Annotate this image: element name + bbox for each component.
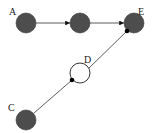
endpoint-dot-e — [125, 29, 130, 34]
edge-d-to-e — [89, 31, 127, 68]
label-a: A — [9, 6, 17, 17]
edge-c-to-d — [34, 80, 72, 113]
graph-diagram: A E D C — [0, 0, 154, 133]
node-c — [16, 110, 36, 130]
endpoint-dot-d — [70, 78, 75, 83]
node-b — [70, 13, 90, 33]
label-d: D — [84, 54, 91, 65]
label-c: C — [8, 102, 15, 113]
label-e: E — [138, 6, 144, 17]
node-a — [16, 13, 36, 33]
